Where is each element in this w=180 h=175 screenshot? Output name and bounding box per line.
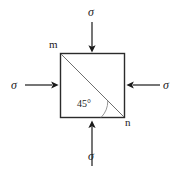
corner-label-m: m xyxy=(49,39,58,50)
stress-label-right: σ xyxy=(163,79,169,91)
diagonal-plane-line xyxy=(61,54,124,117)
stress-arrow-top xyxy=(88,22,95,53)
angle-arc xyxy=(101,101,108,118)
angle-label: 45° xyxy=(77,99,91,109)
stress-label-top: σ xyxy=(88,6,94,18)
stress-label-left: σ xyxy=(11,79,17,91)
corner-label-n: n xyxy=(125,117,131,128)
stress-arrow-left xyxy=(25,81,59,88)
stress-element-figure: σ σ σ σ m n 45° xyxy=(0,0,180,175)
stress-arrow-right xyxy=(126,81,160,88)
stress-label-bottom: σ xyxy=(88,150,94,162)
